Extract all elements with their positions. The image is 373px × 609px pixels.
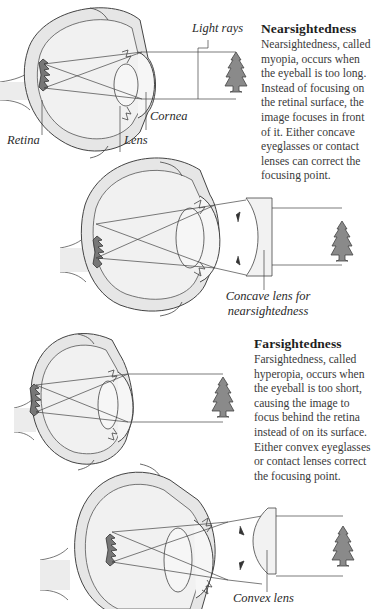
label-cornea: Cornea: [150, 109, 188, 124]
label-concave-lens-line2: nearsightedness: [212, 304, 324, 319]
nearsightedness-description: Nearsightedness, called myopia, occurs w…: [261, 38, 373, 184]
label-concave-lens-line1: Concave lens for: [212, 289, 324, 304]
eye-diagram-farsighted-corrected: [40, 464, 354, 609]
label-concave-lens: Concave lens for nearsightedness: [212, 289, 324, 319]
label-lens: Lens: [124, 133, 148, 148]
farsightedness-description: Farsightedness, called hyperopia, occurs…: [254, 353, 372, 484]
eye-diagram-farsighted: [14, 333, 234, 470]
nearsightedness-heading: Nearsightedness: [261, 21, 356, 37]
label-convex-lens: Convex lens: [233, 591, 294, 606]
label-light-rays: Light rays: [192, 21, 243, 36]
label-retina: Retina: [7, 133, 40, 148]
farsightedness-heading: Farsightedness: [254, 336, 342, 352]
